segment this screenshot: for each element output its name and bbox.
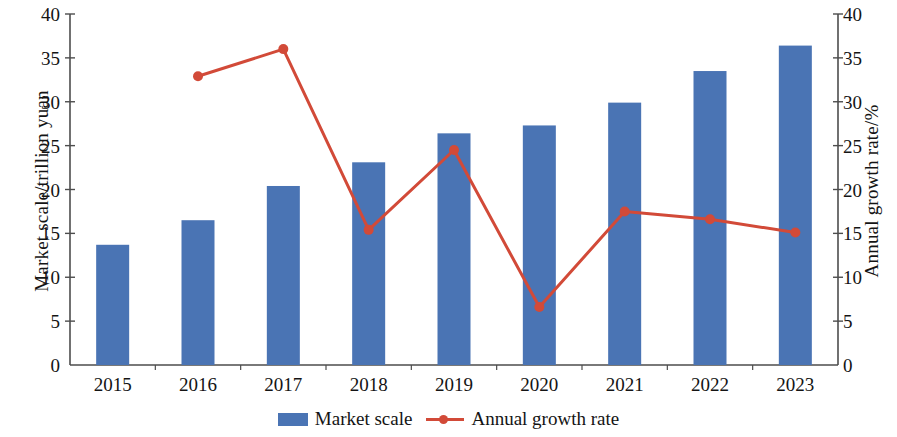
bar-2018 (352, 162, 385, 365)
bar-2021 (608, 103, 641, 365)
data-point-2017 (278, 44, 288, 54)
bar-2020 (523, 125, 556, 365)
legend-item-market-scale: Market scale (278, 408, 413, 430)
data-point-2021 (620, 206, 630, 216)
legend-label: Market scale (315, 408, 413, 430)
data-point-2022 (705, 214, 715, 224)
legend-item-annual-growth-rate: Annual growth rate (426, 408, 619, 430)
bar-2015 (96, 245, 129, 365)
legend-line-marker-icon (426, 413, 464, 425)
data-point-2023 (790, 227, 800, 237)
chart-legend: Market scale Annual growth rate (0, 408, 897, 430)
chart-container: Market scale/trillion yuan Annual growth… (0, 0, 897, 437)
legend-bar-swatch-icon (278, 413, 308, 426)
bar-2016 (182, 220, 215, 365)
bar-2023 (779, 46, 812, 365)
data-point-2018 (364, 225, 374, 235)
bar-2019 (438, 133, 471, 365)
plot-area (0, 0, 897, 437)
data-point-2020 (534, 302, 544, 312)
bar-series (96, 46, 812, 365)
data-point-2019 (449, 145, 459, 155)
legend-label: Annual growth rate (471, 408, 619, 430)
data-point-2016 (193, 71, 203, 81)
bar-2017 (267, 186, 300, 365)
